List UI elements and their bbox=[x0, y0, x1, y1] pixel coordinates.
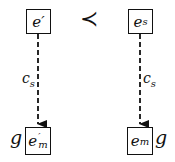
edge-label-sub: s bbox=[151, 78, 156, 89]
left-edge-label: cs bbox=[22, 70, 35, 89]
node-e-prime-m: e′m bbox=[25, 127, 51, 155]
right-edge-label: cs bbox=[143, 70, 156, 89]
node-e-s: es bbox=[128, 9, 153, 34]
node-label-base: e bbox=[28, 132, 37, 150]
right-g-label: g bbox=[155, 126, 167, 148]
edge-label-base: c bbox=[143, 70, 151, 86]
node-label-sub: m bbox=[38, 141, 47, 149]
node-label-sub: m bbox=[140, 136, 149, 147]
node-label-base: e bbox=[131, 132, 140, 150]
node-label-base: e bbox=[32, 13, 41, 31]
node-label-sub: s bbox=[142, 16, 147, 27]
node-e-prime: e′ bbox=[26, 9, 51, 34]
node-label-prime: ′ bbox=[41, 13, 44, 31]
edge-label-base: c bbox=[22, 70, 30, 86]
left-g-label: g bbox=[10, 126, 22, 148]
node-label-base: e bbox=[133, 13, 142, 31]
edge-label-sub: s bbox=[30, 78, 35, 89]
node-e-m: em bbox=[127, 127, 153, 155]
precedes-symbol: ≺ bbox=[80, 6, 98, 31]
